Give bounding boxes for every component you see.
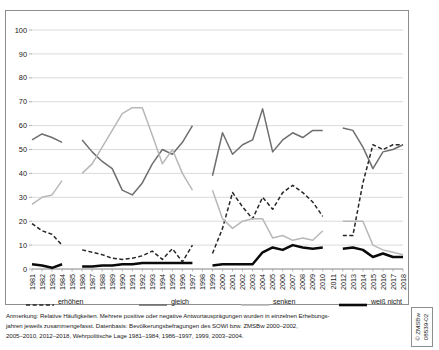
x-tick-label: 1992 (138, 274, 147, 290)
y-tick-label: 30 (19, 193, 27, 202)
x-tick-label: 1981 (28, 274, 37, 290)
copyright-badge: © ZMSBw 08539-02 (411, 307, 433, 347)
series-line-gleich (82, 126, 192, 195)
series-line-weinicht (32, 264, 62, 268)
footnote-line-1: Anmerkung: Relative Häufigkeiten. Mehrer… (6, 311, 404, 321)
legend-swatch-thick (339, 297, 367, 309)
series-line-erhhen (82, 245, 192, 262)
grid-lines (29, 30, 403, 269)
x-tick-label: 1991 (128, 274, 137, 290)
x-tick-label: 1996 (178, 274, 187, 290)
x-axis-tick-labels: 1981198219831984198519861987198819891990… (28, 269, 408, 290)
y-tick-label: 90 (19, 50, 27, 59)
series-line-erhhen (32, 224, 62, 246)
x-tick-label: 2017 (389, 274, 398, 290)
x-tick-label: 2011 (329, 274, 338, 289)
legend-entry-senken[interactable]: senken (241, 296, 295, 310)
line-chart-plot: 0102030405060708090100 19811982198319841… (6, 11, 408, 304)
x-tick-label: 1985 (68, 274, 77, 290)
x-tick-label: 1988 (98, 274, 107, 290)
legend-label: erhöhen (58, 299, 83, 306)
x-tick-label: 1989 (108, 274, 117, 290)
series-line-gleich (343, 128, 403, 169)
x-tick-label: 2009 (308, 274, 317, 290)
y-axis-tick-labels: 0102030405060708090100 (15, 26, 27, 274)
y-tick-label: 60 (19, 121, 27, 130)
x-tick-label: 2002 (238, 274, 247, 290)
chart-frame: 0102030405060708090100 19811982198319841… (5, 10, 409, 305)
x-tick-label: 2007 (288, 274, 297, 290)
legend-entry-gleich[interactable]: gleich (139, 296, 189, 310)
x-tick-label: 2008 (298, 274, 307, 290)
chart-footnote: Anmerkung: Relative Häufigkeiten. Mehrer… (6, 311, 404, 341)
copyright-text: © ZMSBw 08539-02 (414, 313, 430, 341)
x-tick-label: 1998 (198, 274, 207, 290)
y-tick-label: 40 (19, 169, 27, 178)
x-tick-label: 2018 (399, 274, 408, 290)
data-series-group (32, 108, 403, 268)
x-tick-label: 2012 (339, 274, 348, 290)
footnote-line-2: jahren jeweils zusammengefasst. Datenbas… (6, 321, 404, 331)
y-tick-label: 0 (23, 265, 27, 274)
copyright-id: 08539-02 (422, 313, 430, 341)
series-line-weinicht (82, 263, 192, 267)
footnote-line-3: 2005–2010, 2012–2018, Wehrpolitische Lag… (6, 331, 404, 341)
y-tick-label: 20 (19, 217, 27, 226)
x-tick-label: 2004 (258, 274, 267, 290)
x-tick-label: 2010 (318, 274, 327, 290)
x-tick-label: 1999 (208, 274, 217, 290)
x-tick-label: 1982 (38, 274, 47, 290)
x-tick-label: 2015 (369, 274, 378, 290)
x-tick-label: 1995 (168, 274, 177, 290)
x-tick-label: 1983 (48, 274, 57, 290)
series-line-senken (32, 181, 62, 205)
legend-swatch-dashed (26, 297, 54, 309)
x-tick-label: 2014 (359, 274, 368, 290)
x-tick-label: 1990 (118, 274, 127, 290)
legend-label: weiß nicht (371, 299, 402, 306)
x-tick-label: 2006 (278, 274, 287, 290)
x-tick-label: 1984 (58, 274, 67, 290)
x-tick-label: 2013 (349, 274, 358, 290)
series-line-gleich (32, 134, 62, 142)
legend-swatch-solid (139, 297, 167, 309)
x-tick-label: 2000 (218, 274, 227, 290)
legend-entry-weinicht[interactable]: weiß nicht (339, 296, 402, 310)
y-tick-label: 10 (19, 241, 27, 250)
legend-entry-erhhen[interactable]: erhöhen (26, 296, 83, 310)
series-line-senken (343, 221, 403, 254)
x-tick-label: 1986 (78, 274, 87, 290)
series-line-erhhen (212, 185, 322, 253)
series-line-senken (82, 108, 192, 190)
x-tick-label: 1994 (158, 274, 167, 290)
legend-label: gleich (171, 299, 189, 306)
y-tick-label: 50 (19, 145, 27, 154)
legend-swatch-solid (241, 297, 269, 309)
series-line-weinicht (212, 245, 322, 265)
x-tick-label: 2001 (228, 274, 237, 290)
chart-legend: erhöhengleichsenkenweiß nicht (26, 296, 406, 310)
y-tick-label: 70 (19, 97, 27, 106)
copyright-owner: © ZMSBw (414, 313, 422, 341)
figure-container: 0102030405060708090100 19811982198319841… (0, 0, 439, 350)
x-tick-label: 2016 (379, 274, 388, 290)
x-tick-label: 2003 (248, 274, 257, 290)
y-tick-label: 80 (19, 73, 27, 82)
y-tick-label: 100 (15, 26, 27, 35)
x-tick-label: 1997 (188, 274, 197, 290)
x-tick-label: 2005 (268, 274, 277, 290)
series-line-gleich (212, 109, 322, 176)
x-tick-label: 1993 (148, 274, 157, 290)
legend-label: senken (273, 299, 295, 306)
x-tick-label: 1987 (88, 274, 97, 290)
